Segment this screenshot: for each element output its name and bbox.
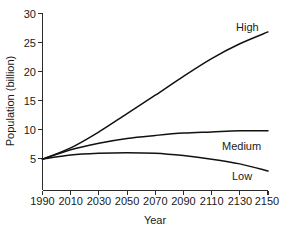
y-tick-label-5: 5 (30, 153, 36, 165)
series-label-low: Low (232, 170, 252, 182)
y-tick-label-25: 25 (24, 37, 36, 49)
x-tick-label-1990: 1990 (30, 195, 54, 207)
x-tick-label-2150: 2150 (255, 195, 279, 207)
series-labels: High Medium Low (222, 21, 261, 182)
y-tick-label-20: 20 (24, 66, 36, 78)
x-tick-label-2110: 2110 (200, 195, 224, 207)
series-label-high: High (236, 21, 259, 33)
y-axis-tick-labels: 30 25 20 15 10 5 (24, 8, 36, 165)
x-axis-tick-labels: 1990 2010 2030 2050 2070 2090 2110 2130 … (30, 195, 279, 207)
x-axis-title: Year (144, 214, 167, 226)
x-tick-label-2090: 2090 (171, 195, 195, 207)
x-tick-label-2070: 2070 (143, 195, 167, 207)
x-tick-label-2050: 2050 (115, 195, 139, 207)
x-tick-label-2010: 2010 (58, 195, 82, 207)
y-tick-label-30: 30 (24, 8, 36, 20)
y-axis-ticks (38, 14, 43, 159)
population-projection-chart: 30 25 20 15 10 5 1990 2010 2030 2050 207… (0, 0, 282, 238)
x-tick-label-2030: 2030 (87, 195, 111, 207)
y-tick-label-10: 10 (24, 124, 36, 136)
chart-canvas: 30 25 20 15 10 5 1990 2010 2030 2050 207… (0, 0, 282, 238)
y-axis-title: Population (billion) (4, 56, 16, 147)
series-label-medium: Medium (222, 140, 261, 152)
x-tick-label-2130: 2130 (228, 195, 252, 207)
y-tick-label-15: 15 (24, 95, 36, 107)
series-line-low (43, 153, 269, 171)
